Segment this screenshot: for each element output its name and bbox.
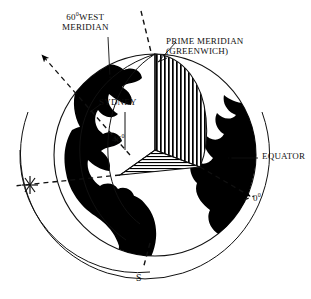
globe-diagram: 600WESTMERIDIAN PRIME MERIDIAN(GREENWICH… bbox=[0, 0, 311, 299]
label-angle-46: 460 bbox=[112, 133, 125, 144]
label-60-west-value: 60 bbox=[66, 12, 75, 22]
label-zero-degree: 0 bbox=[258, 192, 261, 198]
polar-axis-north bbox=[141, 11, 152, 56]
label-angle-degree: 0 bbox=[121, 133, 124, 139]
label-equator: EQUATOR bbox=[262, 151, 305, 161]
globe-illustration bbox=[0, 0, 311, 299]
label-prime-meridian-line2: (GREENWICH) bbox=[166, 46, 228, 56]
label-angle-value: 46 bbox=[112, 134, 121, 144]
label-60-west-tail: WEST bbox=[79, 12, 104, 22]
label-zero-longitude: 00 bbox=[253, 192, 261, 203]
label-meridian-word: MERIDIAN bbox=[62, 22, 109, 32]
label-sydney: SYDNEY bbox=[99, 97, 137, 107]
label-south-pole: S bbox=[136, 272, 142, 283]
label-prime-meridian: PRIME MERIDIAN(GREENWICH) bbox=[166, 36, 244, 56]
label-prime-meridian-line1: PRIME MERIDIAN bbox=[166, 36, 244, 46]
intersection-asterisk-left bbox=[22, 176, 38, 194]
label-60-west-meridian: 600WESTMERIDIAN bbox=[62, 11, 109, 32]
